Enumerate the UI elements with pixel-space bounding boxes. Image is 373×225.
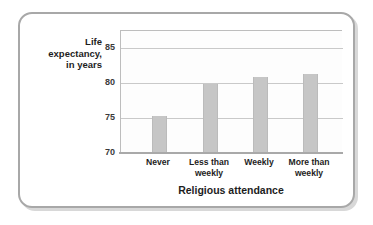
y-tick-label-70: 70 xyxy=(93,147,115,157)
gridline-85 xyxy=(121,48,343,49)
bar-more-than-weekly xyxy=(303,74,318,153)
y-tick-label-75: 75 xyxy=(93,112,115,122)
x-tick-label-more-than-weekly: More than weekly xyxy=(276,157,342,178)
y-axis-title-line-3: in years xyxy=(20,59,102,71)
bar-chart-figure: Life expectancy, in years 85 80 75 70 Ne… xyxy=(0,0,373,225)
x-tick-label-more-than-weekly-line-1: More than xyxy=(276,157,342,168)
x-tick-label-less-than-weekly-line-2: weekly xyxy=(176,168,242,179)
y-tick-label-80: 80 xyxy=(93,77,115,87)
bar-less-than-weekly xyxy=(203,84,218,153)
bar-never xyxy=(152,116,167,153)
plot-area xyxy=(120,30,342,152)
y-axis-title-line-1: Life xyxy=(20,36,102,48)
y-tick-label-85: 85 xyxy=(93,42,115,52)
bar-weekly xyxy=(253,77,268,153)
y-axis-title: Life expectancy, in years xyxy=(20,36,102,71)
x-axis-title: Religious attendance xyxy=(120,184,342,196)
x-axis-line xyxy=(119,152,343,154)
x-tick-label-more-than-weekly-line-2: weekly xyxy=(276,168,342,179)
y-axis-title-line-2: expectancy, xyxy=(20,48,102,60)
